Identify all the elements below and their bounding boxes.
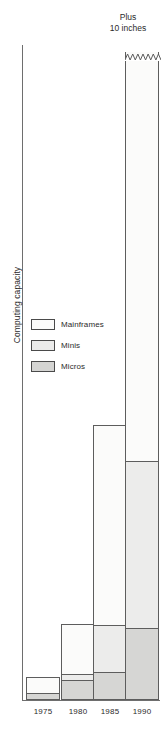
- bar-segment-1990-micros: [126, 628, 158, 699]
- x-tick-label-1980: 1980: [61, 707, 95, 716]
- legend-swatch-minis: [31, 340, 55, 351]
- bar-segment-1985-minis: [94, 625, 126, 673]
- x-tick-label-1985: 1985: [93, 707, 127, 716]
- bar-break-annotation: Plus 10 inches: [96, 12, 160, 34]
- stacked-bar-chart: Plus 10 inches Computing capacity 197519…: [0, 0, 162, 733]
- x-tick-label-1975: 1975: [26, 707, 60, 716]
- bar-segment-1980-micros: [62, 680, 94, 699]
- annotation-line-2: 10 inches: [96, 23, 160, 34]
- x-axis-line: [22, 700, 160, 701]
- legend-label-minis: Minis: [61, 341, 80, 350]
- bar-1980: [61, 624, 95, 700]
- annotation-line-1: Plus: [96, 12, 160, 23]
- legend-label-mainframes: Mainframes: [61, 320, 104, 329]
- bar-1975: [26, 677, 60, 700]
- legend: MainframesMinisMicros: [31, 318, 104, 381]
- bar-segment-1990-minis: [126, 461, 158, 628]
- bar-1990: [125, 52, 159, 700]
- x-tick-label-1990: 1990: [125, 707, 159, 716]
- legend-swatch-mainframes: [31, 319, 55, 330]
- y-axis-line: [22, 45, 23, 701]
- legend-item-minis: Minis: [31, 339, 104, 352]
- bar-segment-1975-micros: [27, 693, 59, 699]
- bar-1985: [93, 425, 127, 700]
- axis-break-zigzag-icon: [125, 47, 159, 53]
- y-axis-title: Computing capacity: [12, 250, 22, 360]
- bar-segment-1985-micros: [94, 672, 126, 699]
- legend-item-mainframes: Mainframes: [31, 318, 104, 331]
- bar-segment-1985-mainframes: [94, 426, 126, 625]
- legend-item-micros: Micros: [31, 360, 104, 373]
- legend-label-micros: Micros: [61, 362, 85, 371]
- bar-segment-1975-mainframes: [27, 678, 59, 693]
- bar-segment-1980-mainframes: [62, 625, 94, 674]
- legend-swatch-micros: [31, 361, 55, 372]
- bar-segment-1990-mainframes: [126, 52, 158, 461]
